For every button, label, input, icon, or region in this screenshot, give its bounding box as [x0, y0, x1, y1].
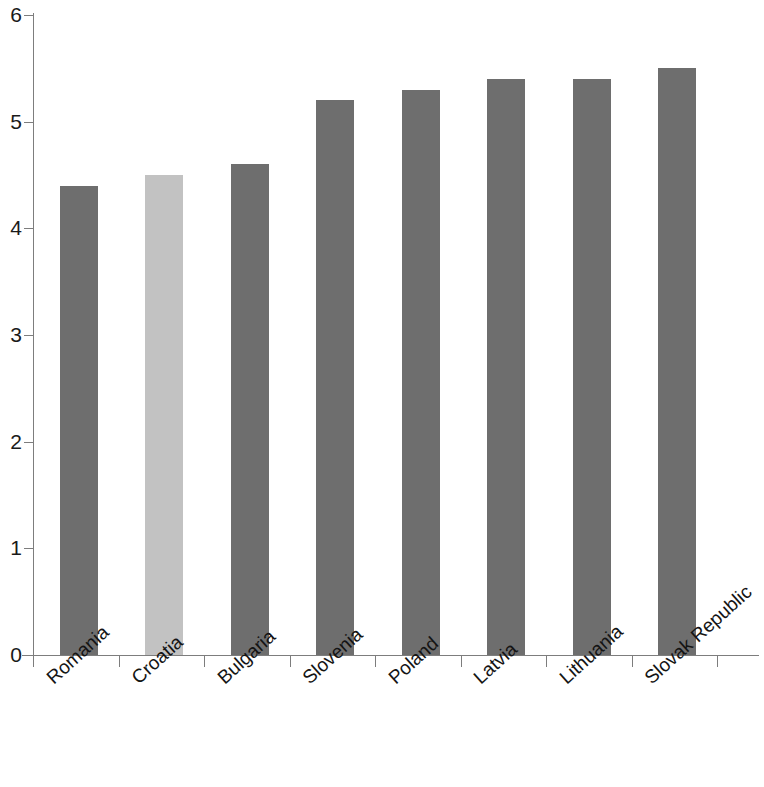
x-tick-6 [546, 656, 547, 667]
x-tick-5 [461, 656, 462, 667]
bar-series [0, 0, 764, 655]
bar-latvia[interactable] [487, 79, 525, 655]
x-axis-line [22, 655, 759, 656]
y-tick-0 [24, 655, 33, 656]
x-tick-8 [717, 656, 718, 667]
bar-poland[interactable] [402, 90, 440, 655]
bar-slovenia[interactable] [316, 100, 354, 655]
bar-romania[interactable] [60, 186, 98, 655]
x-tick-4 [375, 656, 376, 667]
x-tick-3 [290, 656, 291, 667]
bar-slovak-republic[interactable] [658, 68, 696, 655]
bar-chart: 0123456 RomaniaCroatiaBulgariaSloveniaPo… [0, 0, 764, 787]
x-tick-0 [33, 656, 34, 667]
bar-croatia[interactable] [145, 175, 183, 655]
x-tick-1 [119, 656, 120, 667]
x-tick-7 [632, 656, 633, 667]
bar-bulgaria[interactable] [231, 164, 269, 655]
bar-lithuania[interactable] [573, 79, 611, 655]
x-tick-2 [204, 656, 205, 667]
